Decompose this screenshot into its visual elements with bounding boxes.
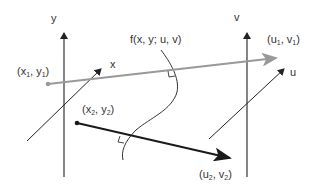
right-angle-marker-2 (118, 136, 124, 143)
v-axis-label: v (234, 11, 240, 23)
mapping-diagram: y x v u f(x, y; u, v) (x1, y1) (u1, v1) … (0, 0, 319, 194)
ray-2 (77, 123, 230, 158)
ray-1-origin-dot (46, 82, 51, 87)
u-axis-label: u (290, 66, 296, 78)
point-label-u2-v2: (u2, v2) (199, 168, 232, 181)
function-label: f(x, y; u, v) (130, 33, 181, 45)
ray-1 (48, 58, 276, 84)
x-axis-label: x (110, 58, 116, 70)
y-axis-label: y (51, 12, 57, 24)
point-label-x1-y1: (x1, y1) (17, 65, 49, 78)
point-label-u1-v1: (u1, v1) (267, 33, 300, 46)
point-label-x2-y2: (x2, y2) (82, 103, 114, 116)
ray-2-origin-dot (75, 121, 80, 126)
source-frame: y x (27, 12, 116, 177)
